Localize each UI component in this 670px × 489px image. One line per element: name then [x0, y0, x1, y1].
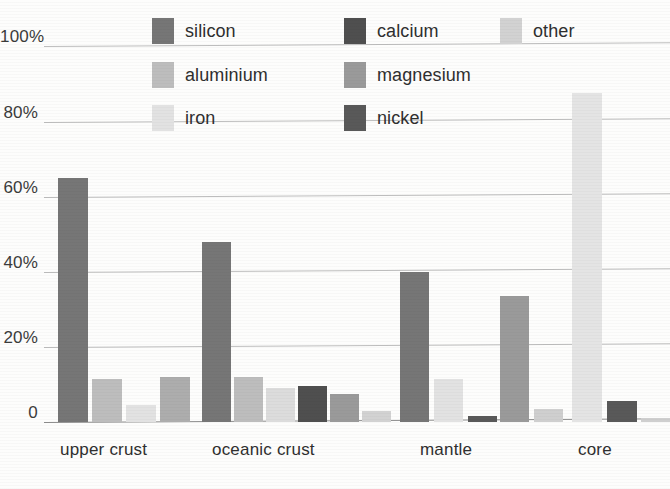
- bar-upper-crust-silicon: [58, 178, 88, 422]
- bar-core-iron: [572, 93, 602, 422]
- legend-label-nickel: nickel: [377, 108, 424, 129]
- legend-item-nickel[interactable]: nickel: [344, 105, 424, 131]
- x-axis-label-core: core: [578, 440, 612, 460]
- legend-label-aluminium: aluminium: [185, 65, 268, 86]
- bar-upper-crust-iron: [126, 405, 156, 422]
- x-axis-label-mantle: mantle: [420, 440, 472, 460]
- legend-item-calcium[interactable]: calcium: [344, 18, 439, 44]
- legend-label-iron: iron: [185, 108, 215, 129]
- legend-swatch-icon-magnesium: [344, 62, 366, 88]
- bar-oceanic-crust-calcium: [298, 386, 327, 422]
- bar-mantle-silicon: [400, 272, 429, 422]
- bar-mantle-iron: [434, 379, 463, 422]
- legend-item-magnesium[interactable]: magnesium: [344, 62, 471, 88]
- legend-swatch-icon-calcium: [344, 18, 366, 44]
- y-axis-tick-label: 40%: [0, 253, 38, 273]
- bar-upper-crust-aluminium: [92, 379, 122, 422]
- legend-swatch-icon-aluminium: [152, 62, 174, 88]
- legend-item-aluminium[interactable]: aluminium: [152, 62, 268, 88]
- bar-oceanic-crust-silicon: [202, 242, 231, 422]
- bar-mantle-nickel: [468, 416, 497, 422]
- legend-swatch-icon-other: [500, 18, 522, 44]
- legend-swatch-icon-iron: [152, 105, 174, 131]
- legend-label-other: other: [533, 21, 575, 42]
- bar-core-other: [641, 418, 670, 423]
- legend-swatch-icon-silicon: [152, 18, 174, 44]
- bar-oceanic-crust-other: [362, 411, 391, 422]
- bar-upper-crust-magnesium: [160, 377, 190, 422]
- bar-core-nickel: [607, 401, 637, 422]
- x-axis-label-upper-crust: upper crust: [60, 440, 147, 460]
- x-axis-label-oceanic-crust: oceanic crust: [212, 440, 315, 460]
- y-axis-tick-label: 60%: [0, 178, 38, 198]
- bar-oceanic-crust-iron: [266, 388, 295, 422]
- legend-label-magnesium: magnesium: [377, 65, 471, 86]
- y-axis-tick-label: 0: [0, 403, 38, 423]
- chart-legend: siliconaluminiumironcalciummagnesiumnick…: [0, 0, 670, 140]
- y-axis-tick-label: 20%: [0, 328, 38, 348]
- bar-mantle-magnesium: [500, 296, 529, 422]
- legend-item-silicon[interactable]: silicon: [152, 18, 236, 44]
- legend-label-calcium: calcium: [377, 21, 439, 42]
- legend-item-other[interactable]: other: [500, 18, 575, 44]
- legend-swatch-icon-nickel: [344, 105, 366, 131]
- legend-label-silicon: silicon: [185, 21, 236, 42]
- chart-page: 020%40%60%80%100%upper crustoceanic crus…: [0, 0, 670, 489]
- legend-item-iron[interactable]: iron: [152, 105, 215, 131]
- bar-oceanic-crust-magnesium: [330, 394, 359, 422]
- bar-mantle-other: [534, 409, 563, 422]
- bar-oceanic-crust-aluminium: [234, 377, 263, 422]
